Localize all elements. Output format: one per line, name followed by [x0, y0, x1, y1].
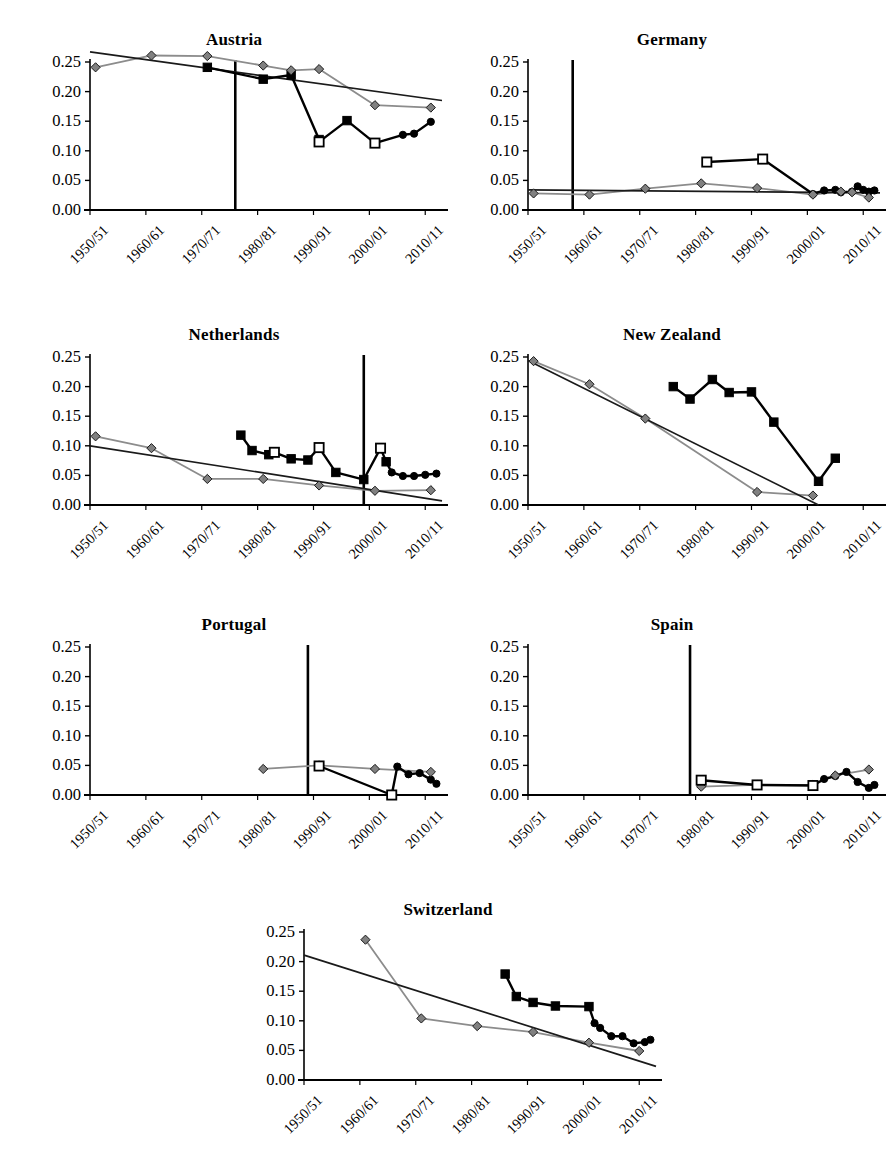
marker-square-filled: [343, 116, 351, 124]
marker-square-open: [752, 780, 761, 789]
data-point: [405, 771, 412, 778]
data-point: [147, 444, 156, 453]
marker-diamond: [91, 63, 100, 72]
data-point: [314, 761, 323, 770]
marker-circle: [871, 187, 878, 194]
marker-square-open: [387, 790, 396, 799]
marker-diamond: [864, 765, 873, 774]
panel-switzerland: Switzerland0.000.050.100.150.200.251950/…: [232, 900, 664, 1166]
data-point: [203, 51, 212, 60]
marker-square-open: [808, 781, 817, 790]
data-point: [387, 790, 396, 799]
data-point: [203, 63, 211, 71]
marker-diamond: [426, 486, 435, 495]
y-axis-tick-label: 0.20: [456, 82, 519, 102]
marker-circle: [843, 768, 850, 775]
y-axis-tick-label: 0.15: [456, 696, 519, 716]
marker-square-filled: [725, 388, 733, 396]
data-point: [91, 63, 100, 72]
data-point: [314, 443, 323, 452]
y-axis-tick-label: 0.25: [18, 347, 81, 367]
marker-diamond: [314, 65, 323, 74]
data-point: [501, 970, 509, 978]
marker-circle: [608, 1033, 615, 1040]
data-point: [512, 992, 520, 1000]
marker-diamond: [147, 51, 156, 60]
data-point: [287, 455, 295, 463]
data-point: [370, 101, 379, 110]
marker-diamond: [473, 1022, 482, 1031]
data-point: [758, 154, 767, 163]
data-point: [814, 477, 822, 485]
data-point: [831, 771, 840, 780]
data-point: [752, 487, 761, 496]
plot-area: [18, 325, 450, 540]
data-point: [585, 380, 594, 389]
data-point: [270, 448, 279, 457]
marker-square-open: [314, 761, 323, 770]
panel-germany: Germany0.000.050.100.150.200.251950/5119…: [456, 30, 888, 320]
y-axis-tick-label: 0.00: [18, 785, 81, 805]
data-point: [360, 475, 368, 483]
marker-square-filled: [382, 458, 390, 466]
y-axis-tick-label: 0.20: [18, 667, 81, 687]
plot-area: [18, 30, 450, 245]
data-point: [259, 764, 268, 773]
y-axis-tick-label: 0.05: [456, 465, 519, 485]
data-point: [147, 51, 156, 60]
data-point: [647, 1036, 654, 1043]
y-axis-tick-label: 0.10: [18, 436, 81, 456]
data-point: [410, 130, 417, 137]
data-point: [433, 780, 440, 787]
plot-area: [18, 615, 450, 830]
data-point: [551, 1002, 559, 1010]
data-point: [702, 157, 711, 166]
data-point: [641, 184, 650, 193]
marker-circle: [422, 471, 429, 478]
y-axis-tick-label: 0.15: [232, 981, 295, 1001]
data-point: [821, 187, 828, 194]
y-axis-tick-label: 0.05: [18, 465, 81, 485]
marker-circle: [416, 769, 423, 776]
marker-square-open: [270, 448, 279, 457]
multi-panel-chart-figure: Austria0.000.050.100.150.200.251950/5119…: [0, 0, 888, 1166]
panel-portugal: Portugal0.000.050.100.150.200.251950/511…: [18, 615, 450, 905]
plot-area: [232, 900, 664, 1115]
y-axis-tick-label: 0.00: [18, 495, 81, 515]
data-point: [831, 454, 839, 462]
census-line: [365, 940, 639, 1051]
data-point: [304, 456, 312, 464]
marker-circle: [394, 763, 401, 770]
marker-diamond: [203, 474, 212, 483]
marker-diamond: [641, 414, 650, 423]
data-point: [410, 472, 417, 479]
data-point: [259, 61, 268, 70]
y-axis-tick-label: 0.10: [18, 141, 81, 161]
marker-square-filled: [203, 63, 211, 71]
plot-area: [456, 30, 888, 245]
marker-circle: [821, 775, 828, 782]
y-axis-tick-label: 0.15: [18, 406, 81, 426]
marker-diamond: [635, 1046, 644, 1055]
marker-diamond: [585, 380, 594, 389]
data-point: [343, 116, 351, 124]
y-axis-tick-label: 0.25: [456, 52, 519, 72]
marker-square-filled: [529, 998, 537, 1006]
marker-circle: [854, 778, 861, 785]
data-point: [416, 769, 423, 776]
data-point: [747, 388, 755, 396]
y-axis-tick-label: 0.25: [18, 52, 81, 72]
survey-line: [207, 67, 430, 143]
data-point: [426, 486, 435, 495]
data-point: [686, 395, 694, 403]
y-axis-tick-label: 0.15: [18, 696, 81, 716]
y-axis-tick-label: 0.15: [456, 406, 519, 426]
marker-circle: [433, 780, 440, 787]
data-point: [248, 446, 256, 454]
marker-square-filled: [708, 375, 716, 383]
marker-diamond: [147, 444, 156, 453]
data-point: [376, 444, 385, 453]
data-point: [871, 781, 878, 788]
marker-square-filled: [585, 1002, 593, 1010]
marker-diamond: [426, 767, 435, 776]
